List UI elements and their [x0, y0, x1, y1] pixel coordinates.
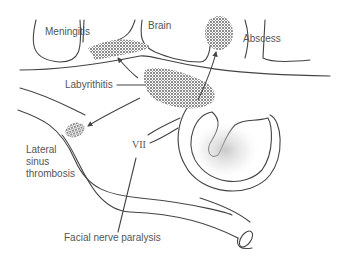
canal-arm-top [148, 118, 180, 135]
brain-gyrus-mid [112, 20, 135, 42]
meningitis-label: Meningitis [45, 26, 90, 38]
labyrinthitis-label: Labyrithitis [65, 79, 113, 91]
cochlea-shading [190, 120, 260, 180]
bone-upper-curve [20, 88, 85, 115]
abscess-label: Abscess [243, 33, 281, 45]
abscess-stipple [205, 16, 233, 50]
lateral-sinus-thrombosis-label: Lateral sinus thrombosis [26, 144, 75, 180]
nerve-canal-top [200, 198, 250, 222]
facial-nerve-paralysis-label: Facial nerve paralysis [64, 232, 161, 244]
meningitis-stipple [88, 39, 150, 60]
sinus-stipple [63, 120, 87, 140]
labyrinth-stipple [144, 68, 215, 109]
nerve-vii-label: VII [132, 139, 146, 151]
canal-arm-bottom [150, 128, 178, 143]
arrow-to-meningitis [118, 58, 138, 78]
brain-label: Brain [148, 20, 171, 32]
ear-complications-diagram [0, 0, 352, 261]
arrow-to-sinus [88, 98, 140, 126]
